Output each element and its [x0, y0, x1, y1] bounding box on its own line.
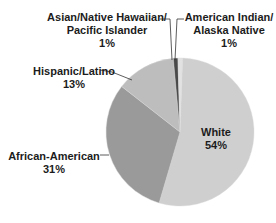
label-asian-line1: Asian/Native Hawaiian/	[47, 11, 167, 23]
leader-asian	[160, 19, 172, 60]
leader-american-indian	[175, 19, 184, 60]
pie-slices	[106, 58, 254, 206]
label-african-american-pct: 31%	[43, 163, 65, 175]
pie-chart: Asian/Native Hawaiian/ Pacific Islander …	[0, 0, 276, 223]
label-asian-pct: 1%	[99, 37, 115, 49]
label-american-indian-line1: American Indian/	[185, 11, 274, 23]
label-american-indian-line2: Alaska Native	[193, 24, 265, 36]
label-asian-line2: Pacific Islander	[67, 24, 148, 36]
label-american-indian-pct: 1%	[221, 37, 237, 49]
label-white-pct: 54%	[205, 139, 227, 151]
label-african-american-name: African-American	[8, 150, 100, 162]
label-white-name: White	[201, 126, 231, 138]
label-hispanic-pct: 13%	[63, 78, 85, 90]
label-hispanic-name: Hispanic/Latino	[33, 65, 115, 77]
